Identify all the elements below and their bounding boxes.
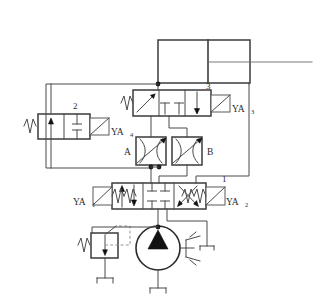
- valve-2-solenoid-label: YA: [111, 127, 124, 137]
- drive-vane-lower: [186, 257, 200, 261]
- prime-mover-group: [180, 232, 200, 265]
- valve-3-spring-actuator: [121, 96, 133, 110]
- valve-3-solenoid-actuator: [211, 95, 230, 112]
- pipe-throttleB-to-valve1: [159, 165, 187, 183]
- valve-3-group: 3 YA 3: [121, 81, 254, 116]
- hydraulic-schematic-diagram: 3 YA 3 2 YA 4: [0, 0, 322, 300]
- valve-3-solenoid-label-sub: 3: [251, 108, 254, 115]
- valve-1-left-solenoid-label-sub: 1: [92, 201, 95, 208]
- valve-2-group: 2 YA 4: [24, 101, 134, 139]
- valve-3-solenoid-label: YA: [232, 104, 245, 114]
- valve-2-number: 2: [73, 101, 78, 111]
- valve-2-solenoid-label-sub: 4: [130, 131, 134, 138]
- valve-1-group: 1 YA 1 YA 2: [73, 174, 248, 209]
- drive-vane-upper: [186, 236, 200, 240]
- relief-valve-spring: [78, 238, 90, 252]
- valve-3-number: 3: [206, 81, 211, 91]
- valve-1-body: [112, 183, 206, 209]
- relief-valve-group: [78, 226, 130, 283]
- throttle-b-label: B: [207, 147, 213, 157]
- pipe-valve3-to-throttleB: [169, 116, 187, 137]
- drive-tip-upper: [190, 232, 196, 237]
- schematic-canvas: 3 YA 3 2 YA 4: [0, 0, 322, 300]
- valve-2-solenoid-actuator: [90, 118, 109, 135]
- cylinder-barrel: [158, 40, 250, 83]
- throttle-a-group: A: [124, 137, 166, 165]
- valve-1-left-solenoid-label: YA: [73, 197, 86, 207]
- valve-1-right-solenoid-label: YA: [226, 197, 239, 207]
- valve-1-right-solenoid-label-sub: 2: [245, 201, 248, 208]
- valve-2-spring-actuator: [24, 119, 36, 133]
- cylinder-group: [158, 40, 312, 83]
- drive-tip-lower: [190, 260, 196, 265]
- throttle-a-label: A: [124, 147, 131, 157]
- pump-group: [136, 226, 180, 293]
- valve-3-body: [133, 90, 211, 116]
- throttle-b-group: B: [172, 137, 213, 165]
